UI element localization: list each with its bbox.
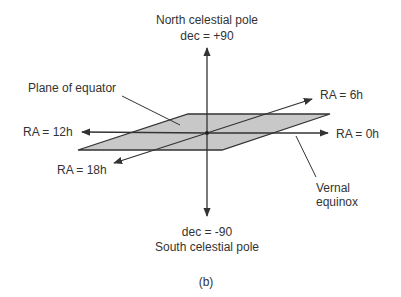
- ra-0h-label: RA = 0h: [336, 127, 379, 141]
- south-pole-label: South celestial pole: [155, 240, 259, 254]
- vernal-label-line1: Vernal: [316, 181, 350, 195]
- plane-label: Plane of equator: [28, 81, 116, 95]
- north-pole-label: North celestial pole: [156, 13, 258, 27]
- vernal-label-line2: equinox: [316, 195, 358, 209]
- origin-point: [205, 131, 209, 135]
- plane-leader-line: [122, 96, 180, 125]
- ra-18h-label: RA = 18h: [57, 163, 107, 177]
- vernal-leader-line: [296, 136, 316, 177]
- ra-12h-label: RA = 12h: [23, 125, 73, 139]
- figure-caption: (b): [199, 275, 214, 289]
- ra-6h-label: RA = 6h: [320, 88, 363, 102]
- dec-plus-label: dec = +90: [180, 29, 233, 43]
- dec-minus-label: dec = -90: [182, 225, 232, 239]
